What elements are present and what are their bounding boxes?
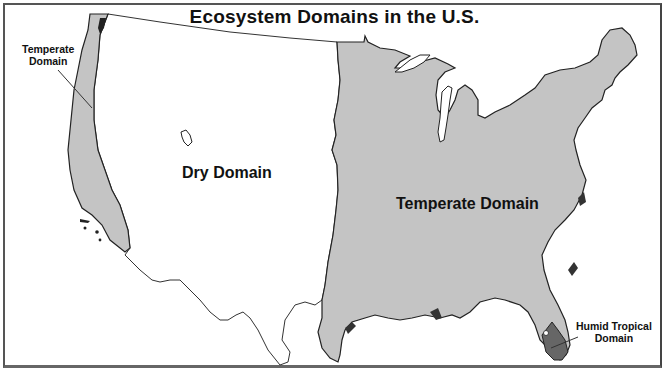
label-dry-domain: Dry Domain xyxy=(182,164,272,182)
label-humid-tropical: Humid Tropical Domain xyxy=(576,320,652,344)
label-line: Domain xyxy=(576,332,652,344)
dry-domain-region xyxy=(94,14,340,365)
label-line: Domain xyxy=(22,55,74,67)
label-line: Temperate xyxy=(22,43,74,55)
label-line: Humid Tropical xyxy=(576,320,652,332)
us-map xyxy=(0,0,669,376)
label-temperate-west: Temperate Domain xyxy=(22,43,74,67)
label-temperate-east: Temperate Domain xyxy=(396,195,539,213)
map-title: Ecosystem Domains in the U.S. xyxy=(0,6,669,28)
